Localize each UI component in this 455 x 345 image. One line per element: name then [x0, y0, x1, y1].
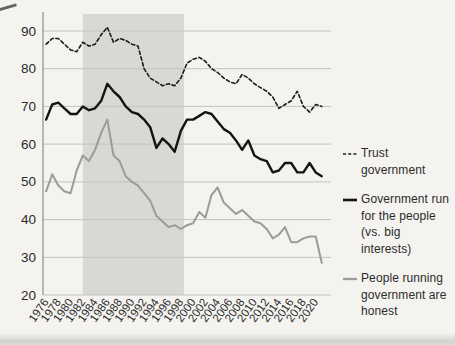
y-tick-label-90: 90 — [21, 24, 36, 39]
highlight-band — [83, 14, 184, 295]
chart-page: 2030405060708090197619781980198219841986… — [0, 0, 455, 345]
y-tick-label-40: 40 — [21, 212, 36, 227]
legend: Trust government Government run for the … — [342, 145, 454, 333]
legend-entry-government-run-for-people: Government run for the people (vs. big i… — [342, 191, 454, 257]
legend-entry-trust-government: Trust government — [342, 145, 454, 178]
dashed-line-swatch — [342, 151, 358, 157]
legend-entry-people-honest: People running government are honest — [342, 270, 454, 320]
solid-gray-line-swatch — [342, 276, 358, 282]
y-tick-label-60: 60 — [21, 137, 36, 152]
y-tick-label-30: 30 — [21, 250, 36, 265]
y-tick-label-50: 50 — [21, 174, 36, 189]
y-tick-label-80: 80 — [21, 61, 36, 76]
legend-label-trust-government: Trust government — [361, 145, 454, 178]
y-tick-label-70: 70 — [21, 99, 36, 114]
solid-dark-line-swatch — [342, 197, 358, 203]
legend-label-government-run-for-people: Government run for the people (vs. big i… — [361, 191, 454, 257]
y-tick-label-20: 20 — [21, 288, 36, 303]
legend-label-people-honest: People running government are honest — [361, 270, 454, 320]
